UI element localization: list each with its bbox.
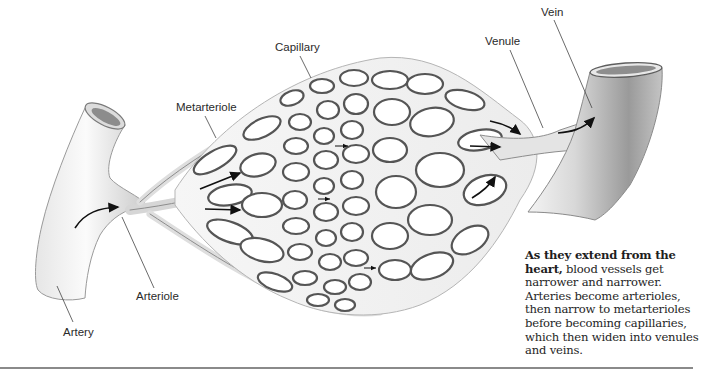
vein-leader bbox=[554, 20, 592, 108]
label-vein: Vein bbox=[541, 6, 563, 18]
label-arteriole: Arteriole bbox=[136, 290, 179, 302]
artery-vessel bbox=[35, 98, 148, 300]
figure-caption: As they extend from the heart, blood ves… bbox=[525, 249, 701, 358]
label-capillary: Capillary bbox=[275, 41, 320, 53]
capillary-mesh bbox=[175, 57, 537, 315]
capillary-leader bbox=[300, 56, 311, 78]
label-metarteriole: Metarteriole bbox=[176, 101, 237, 113]
bottom-divider bbox=[0, 367, 693, 369]
label-artery: Artery bbox=[63, 326, 94, 338]
label-venule: Venule bbox=[485, 35, 520, 47]
arteriole-leader bbox=[122, 217, 154, 288]
metarteriole-leader bbox=[205, 116, 216, 138]
caption-body: blood vessels get narrower and narrower.… bbox=[525, 262, 699, 358]
